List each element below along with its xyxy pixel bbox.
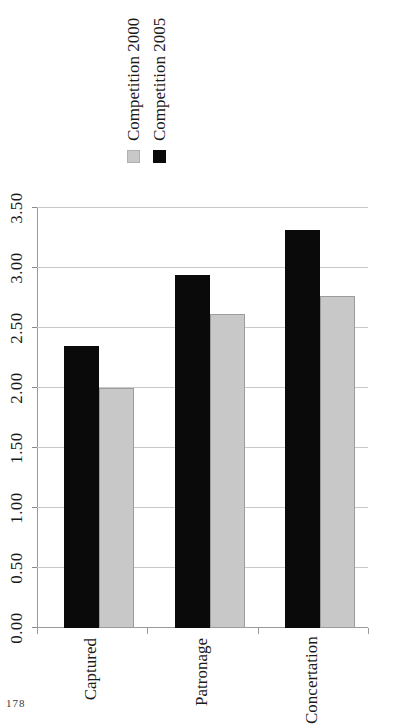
legend-label: Competition 2005	[151, 18, 168, 141]
axis-tick	[32, 507, 37, 508]
category-label-captured: Captured	[81, 638, 101, 724]
bar-competition-2005-captured	[64, 346, 99, 628]
value-axis-line	[37, 208, 38, 628]
legend-label: Competition 2000	[125, 18, 142, 141]
category-boundary-tick	[37, 628, 38, 634]
value-tick-label: 2.50	[7, 300, 27, 356]
legend-item: Competition 2000	[120, 18, 146, 163]
bar-chart: 0.000.501.001.502.002.503.003.50 Capture…	[37, 208, 368, 628]
bar-competition-2000-concertation	[320, 296, 355, 628]
category-label-concertation: Concertation	[302, 638, 322, 724]
legend-swatch-gray	[127, 150, 140, 163]
value-tick-label: 3.50	[7, 180, 27, 236]
gridline	[37, 207, 368, 208]
bar-competition-2005-concertation	[285, 230, 320, 628]
value-tick-label: 2.00	[7, 360, 27, 416]
bar-competition-2000-captured	[99, 388, 134, 628]
axis-tick	[32, 267, 37, 268]
axis-tick	[32, 207, 37, 208]
category-boundary-tick	[147, 628, 148, 634]
bar-competition-2000-patronage	[210, 314, 245, 628]
category-label-patronage: Patronage	[192, 638, 212, 724]
category-boundary-tick	[368, 628, 369, 634]
axis-tick	[32, 387, 37, 388]
value-tick-label: 0.00	[7, 600, 27, 656]
axis-tick	[32, 327, 37, 328]
legend-item: Competition 2005	[146, 18, 172, 163]
value-tick-label: 0.50	[7, 540, 27, 596]
value-tick-label: 1.50	[7, 420, 27, 476]
bar-competition-2005-patronage	[175, 275, 210, 628]
category-boundary-tick	[258, 628, 259, 634]
value-tick-label: 1.00	[7, 480, 27, 536]
chart-legend: Competition 2000Competition 2005	[120, 18, 172, 163]
page-folio: 178	[6, 697, 26, 709]
axis-tick	[32, 567, 37, 568]
axis-tick	[32, 447, 37, 448]
value-tick-label: 3.00	[7, 240, 27, 296]
legend-swatch-black	[153, 150, 166, 163]
